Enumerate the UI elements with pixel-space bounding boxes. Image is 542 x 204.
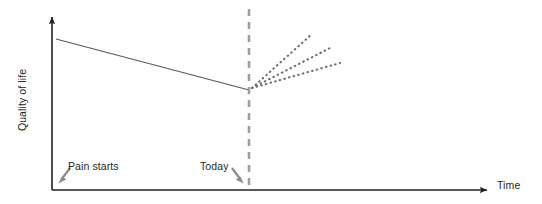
x-axis-label: Time bbox=[497, 180, 520, 191]
projection-lower-line bbox=[252, 63, 340, 88]
today-label: Today bbox=[200, 161, 229, 172]
plot-canvas bbox=[0, 0, 542, 204]
pain-starts-label: Pain starts bbox=[68, 161, 119, 172]
y-axis-label: Quality of life bbox=[17, 69, 28, 131]
today-arrow-icon bbox=[232, 168, 244, 184]
observed-decline-line bbox=[56, 39, 249, 90]
quality-of-life-diagram: Quality of life Time Pain starts Today bbox=[0, 0, 542, 204]
